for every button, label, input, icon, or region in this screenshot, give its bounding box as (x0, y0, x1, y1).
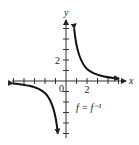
origin-label: 0 (59, 83, 64, 94)
curve-negative-branch (13, 83, 58, 133)
curve-positive-branch (74, 29, 119, 79)
x-axis-label: x (128, 75, 134, 86)
y-tick-label-2: 2 (55, 55, 60, 66)
y-axis-label: y (63, 7, 69, 18)
chart: y x 0 2 2 f = f⁻¹ (0, 0, 139, 145)
function-annotation: f = f⁻¹ (76, 102, 101, 113)
x-tick-label-2: 2 (85, 84, 90, 95)
